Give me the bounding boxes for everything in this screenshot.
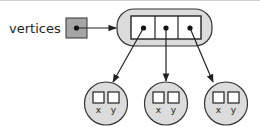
- field-box-x: [213, 92, 224, 103]
- field-label-y: y: [231, 105, 237, 115]
- field-label-x: x: [216, 105, 222, 115]
- point-object-1: x y: [145, 82, 188, 125]
- point-object-0: x y: [85, 82, 128, 125]
- field-box-y: [108, 92, 119, 103]
- field-label-x: x: [156, 105, 162, 115]
- field-box-y: [168, 92, 179, 103]
- field-box-x: [93, 92, 104, 103]
- vertices-diagram: vertices x y x y x y: [0, 0, 260, 127]
- field-label-y: y: [171, 105, 177, 115]
- field-label-x: x: [96, 105, 102, 115]
- array-object: [117, 9, 212, 46]
- field-box-x: [153, 92, 164, 103]
- field-label-y: y: [111, 105, 117, 115]
- point-object-2: x y: [205, 82, 248, 125]
- variable-label: vertices: [9, 21, 61, 36]
- field-box-y: [228, 92, 239, 103]
